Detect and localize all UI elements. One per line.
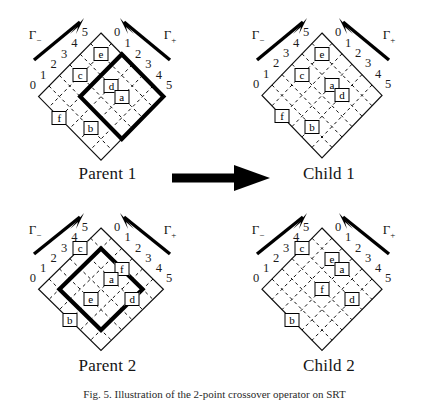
axis-label-gamma-minus-4: 4 [71,37,77,50]
task-cell-b[interactable]: b [62,313,77,327]
gamma-plus-symbol: Γ [164,222,172,237]
axis-label-gamma-plus-5: 5 [166,79,172,92]
gamma-plus-symbol: Γ [164,27,172,42]
gamma-minus-symbol: Γ [29,222,37,237]
gamma-minus-subscript: − [259,230,264,240]
gamma-plus-subscript: + [390,35,395,45]
axis-label-gamma-minus-1: 1 [263,262,269,275]
axis-label-gamma-plus-0: 0 [335,26,341,39]
axis-label-gamma-minus-3: 3 [61,47,67,60]
axis-label-gamma-plus-4: 4 [375,262,381,275]
figure-root: 012345012345Γ−Γ+edacbfParent 1 012345012… [0,0,429,401]
axis-label-gamma-plus-1: 1 [345,36,351,49]
axis-label-gamma-minus-0: 0 [253,272,259,285]
gamma-plus-subscript: + [171,230,176,240]
gamma-minus-subscript: − [36,230,41,240]
axis-label-gamma-minus-5: 5 [82,26,88,39]
axis-label-gamma-minus-3: 3 [61,241,67,254]
gamma-minus-label: Γ− [29,27,42,45]
axis-label-gamma-plus-1: 1 [124,37,130,50]
task-cell-f[interactable]: f [52,111,67,125]
panel-parent-2: 012345012345Γ−Γ+fadcebParent 2 [0,196,215,386]
gamma-plus-label: Γ+ [164,27,177,45]
axis-label-gamma-plus-4: 4 [156,262,162,275]
task-cell-e[interactable]: e [94,47,109,61]
gamma-minus-subscript: − [259,35,264,45]
task-cell-c[interactable]: c [73,68,88,82]
task-cell-d[interactable]: d [345,292,360,306]
task-cell-c[interactable]: c [73,241,88,255]
axis-label-gamma-minus-1: 1 [263,68,269,81]
gamma-minus-symbol: Γ [29,27,37,42]
axis-label-gamma-minus-0: 0 [30,272,36,285]
panel-caption: Parent 2 [0,356,215,376]
axis-label-gamma-plus-3: 3 [145,58,151,71]
axis-label-gamma-plus-3: 3 [365,57,371,70]
gamma-minus-symbol: Γ [252,222,260,237]
gamma-plus-label: Γ+ [383,27,396,45]
task-cell-f[interactable]: f [275,109,290,123]
figure-caption: Fig. 5. Illustration of the 2-point cros… [0,388,429,400]
task-cell-a[interactable]: a [335,262,350,276]
gamma-plus-label: Γ+ [383,222,396,240]
axis-label-gamma-plus-5: 5 [385,272,391,285]
panel-child-2: 012345012345Γ−Γ+eadcfbChild 2 [229,196,429,386]
task-cell-d[interactable]: d [125,292,140,306]
task-cell-d[interactable]: d [335,88,350,102]
axis-label-gamma-minus-5: 5 [82,221,88,234]
axis-label-gamma-minus-5: 5 [303,26,309,39]
task-cell-b[interactable]: b [305,120,320,134]
axis-label-gamma-plus-2: 2 [355,47,361,60]
axis-label-gamma-plus-0: 0 [335,221,341,234]
axis-label-gamma-minus-1: 1 [40,68,46,81]
axis-label-gamma-minus-2: 2 [50,58,56,71]
axis-label-gamma-minus-2: 2 [50,251,56,264]
axis-label-gamma-minus-5: 5 [303,221,309,234]
axis-label-gamma-plus-1: 1 [124,231,130,244]
axis-label-gamma-plus-5: 5 [166,272,172,285]
axis-label-gamma-plus-2: 2 [355,241,361,254]
task-cell-b[interactable]: b [83,121,98,135]
task-cell-b[interactable]: b [285,313,300,327]
axis-label-gamma-minus-2: 2 [273,57,279,70]
gamma-minus-subscript: − [36,35,41,45]
axis-label-gamma-plus-4: 4 [156,68,162,81]
gamma-minus-symbol: Γ [252,27,260,42]
axis-label-gamma-minus-3: 3 [283,47,289,60]
axis-label-gamma-plus-2: 2 [135,241,141,254]
task-cell-e[interactable]: e [83,292,98,306]
task-cell-a[interactable]: a [114,90,129,104]
gamma-plus-label: Γ+ [164,222,177,240]
axis-label-gamma-plus-2: 2 [135,47,141,60]
axis-label-gamma-minus-0: 0 [253,78,259,91]
axis-label-gamma-plus-1: 1 [345,231,351,244]
gamma-minus-label: Γ− [252,222,265,240]
gamma-minus-label: Γ− [252,27,265,45]
axis-label-gamma-minus-0: 0 [30,79,36,92]
gamma-plus-symbol: Γ [383,27,391,42]
axis-label-gamma-plus-0: 0 [114,26,120,39]
task-cell-c[interactable]: c [295,68,310,82]
task-cell-a[interactable]: a [104,272,119,286]
axis-label-gamma-plus-4: 4 [375,68,381,81]
axis-label-gamma-minus-2: 2 [273,251,279,264]
axis-label-gamma-minus-4: 4 [293,36,299,49]
gamma-plus-symbol: Γ [383,222,391,237]
axis-label-gamma-plus-0: 0 [114,221,120,234]
axis-label-gamma-minus-1: 1 [40,262,46,275]
task-cell-f[interactable]: f [315,282,330,296]
panel-caption: Child 2 [229,356,429,376]
gamma-plus-subscript: + [390,230,395,240]
axis-label-gamma-plus-3: 3 [145,251,151,264]
gamma-plus-subscript: + [171,35,176,45]
gamma-minus-label: Γ− [29,222,42,240]
axis-label-gamma-plus-3: 3 [365,251,371,264]
right-arrow-icon [172,163,272,193]
axis-label-gamma-plus-5: 5 [385,78,391,91]
axis-label-gamma-minus-3: 3 [283,241,289,254]
task-cell-c[interactable]: c [295,241,310,255]
task-cell-e[interactable]: e [315,47,330,61]
